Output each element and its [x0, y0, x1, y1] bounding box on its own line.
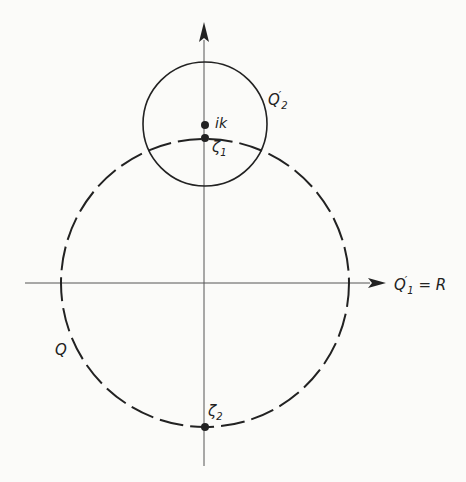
label-zeta2-main: ζ: [208, 402, 216, 420]
point-ik: [201, 121, 209, 129]
label-q-text: Q: [55, 341, 67, 359]
point-zeta2: [201, 423, 209, 431]
point-zeta1: [201, 134, 209, 142]
label-ik-text: ik: [215, 115, 227, 131]
label-axis-rest: = R: [414, 276, 447, 294]
label-x-axis: Q′1 = R: [394, 275, 446, 296]
label-zeta1-main: ζ: [212, 138, 220, 156]
diagram-svg: [0, 0, 466, 482]
label-zeta1-sub: 1: [220, 147, 226, 158]
y-axis-arrow-icon: [199, 22, 209, 42]
label-zeta2-sub: 2: [216, 411, 222, 422]
label-q: Q: [55, 343, 67, 358]
label-ik: ik: [215, 116, 227, 130]
label-zeta2: ζ2: [208, 404, 223, 422]
x-axis-arrow-icon: [368, 278, 386, 288]
label-q2: Q′2: [268, 90, 288, 111]
label-zeta1: ζ1: [212, 140, 227, 158]
label-q2-sub: 2: [281, 100, 287, 111]
complex-plane-diagram: Q′2 ik ζ1 ζ2 Q Q′1 = R: [0, 0, 466, 482]
